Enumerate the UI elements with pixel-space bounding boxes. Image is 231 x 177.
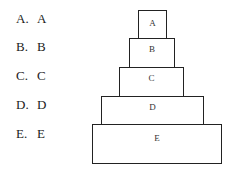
option-b[interactable]: B.B <box>16 40 46 54</box>
tier-d: D <box>101 96 204 125</box>
option-a[interactable]: A.A <box>16 12 46 26</box>
option-value: A <box>37 11 46 26</box>
option-d[interactable]: D.D <box>16 98 46 112</box>
option-value: E <box>37 126 45 141</box>
option-key: E. <box>16 127 37 141</box>
option-c[interactable]: C.C <box>16 69 46 83</box>
option-value: C <box>37 68 46 83</box>
option-key: A. <box>16 12 37 26</box>
tier-e: E <box>92 124 222 164</box>
option-value: D <box>37 97 46 112</box>
tier-a: A <box>138 10 167 39</box>
option-key: C. <box>16 69 37 83</box>
tier-c: C <box>119 67 184 97</box>
option-key: D. <box>16 98 37 112</box>
option-key: B. <box>16 40 37 54</box>
tier-b: B <box>129 38 175 68</box>
option-value: B <box>37 39 46 54</box>
option-e[interactable]: E.E <box>16 127 45 141</box>
